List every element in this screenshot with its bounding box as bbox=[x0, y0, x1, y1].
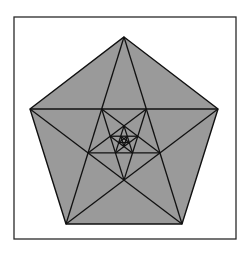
pentagon-figure bbox=[0, 0, 250, 255]
